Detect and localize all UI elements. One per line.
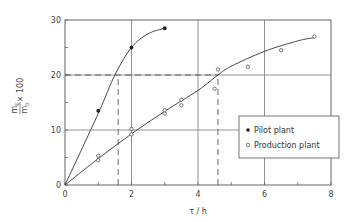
x-tick-label: 6 <box>262 190 267 199</box>
production-plant-point <box>163 109 166 112</box>
production-plant-point <box>130 127 133 130</box>
open-circle-icon <box>246 143 250 147</box>
legend-label-pilot: Pilot plant <box>254 126 294 135</box>
svg-text:m0: m0 <box>20 103 30 114</box>
production-plant-point <box>97 154 100 157</box>
x-tick-label: 4 <box>195 190 200 199</box>
production-plant-point <box>180 104 183 107</box>
curve-production-plant <box>65 38 314 185</box>
chart: 024680102030 Pilot plant Production plan… <box>0 0 349 222</box>
y-tick-label: 20 <box>51 71 61 80</box>
production-plant-point <box>97 159 100 162</box>
production-plant-point <box>246 65 249 68</box>
y-axis-label: mE m0 × 100 <box>10 78 30 114</box>
curve-pilot-plant <box>65 28 165 185</box>
x-tick-label: 2 <box>129 190 134 199</box>
pilot-plant-point <box>163 26 167 30</box>
production-plant-point <box>130 133 133 136</box>
pilot-plant-point <box>130 46 134 50</box>
y-label-denominator: m <box>20 105 29 113</box>
x-axis-label: τ / h <box>189 207 207 216</box>
x-tick-label: 0 <box>62 190 67 199</box>
svg-text:mE: mE <box>10 103 20 114</box>
production-plant-point <box>313 35 316 38</box>
production-plant-point <box>279 49 282 52</box>
y-tick-label: 30 <box>51 16 61 25</box>
y-tick-label: 0 <box>56 181 61 190</box>
x-tick-label: 8 <box>328 190 333 199</box>
tick-labels: 024680102030 <box>51 16 334 199</box>
legend-box <box>239 116 339 158</box>
legend-label-production: Production plant <box>254 141 320 150</box>
y-tick-label: 10 <box>51 126 61 135</box>
legend: Pilot plant Production plant <box>239 116 339 158</box>
grid <box>65 20 331 185</box>
production-plant-point <box>163 112 166 115</box>
pilot-plant-point <box>96 109 100 113</box>
fit-curves <box>65 28 314 185</box>
production-plant-point <box>216 68 219 71</box>
filled-circle-icon <box>246 128 250 132</box>
production-plant-point <box>180 98 183 101</box>
production-plant-point <box>213 87 216 90</box>
y-label-suffix: × 100 <box>16 78 25 103</box>
y-label-numerator: m <box>10 105 19 113</box>
